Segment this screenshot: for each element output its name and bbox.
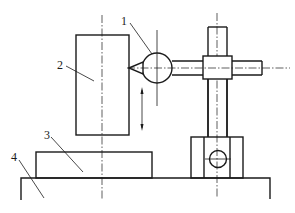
clamp-block [203, 56, 232, 79]
workpiece-block [76, 35, 129, 135]
base-plate [21, 178, 270, 200]
reference-block [36, 152, 152, 178]
leader-line-2 [66, 66, 94, 81]
label-2: 2 [57, 58, 63, 72]
label-1: 1 [121, 14, 127, 28]
movement-arrow-icon [141, 87, 144, 131]
leader-line-1 [130, 23, 152, 54]
label-4: 4 [11, 150, 17, 164]
leader-line-3 [51, 137, 83, 172]
label-3: 3 [44, 128, 50, 142]
vertical-column [208, 27, 227, 137]
leader-line-4 [19, 160, 44, 198]
technical-diagram: 1 2 3 4 [0, 0, 295, 213]
